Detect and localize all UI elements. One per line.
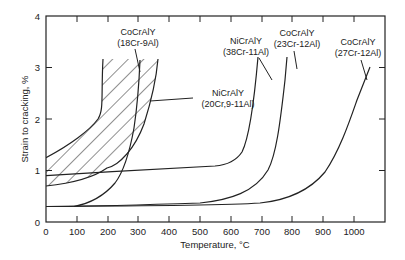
- annotation-line2: (20Cr,9-11Al): [202, 99, 255, 109]
- y-tick-label: 0: [35, 217, 40, 228]
- y-tick-label: 3: [35, 62, 40, 73]
- leader-line: [361, 60, 367, 80]
- annotation-line2: (18Cr-9Al): [117, 38, 159, 48]
- annotation-line1: CoCrAlY: [340, 37, 375, 47]
- annotation-cocraly-27cr: CoCrAlY (27Cr-12Al): [335, 37, 382, 80]
- y-tick-labels: 0 1 2 3 4: [35, 11, 40, 228]
- x-tick-label: 900: [315, 226, 331, 237]
- x-tick-label: 0: [43, 226, 48, 237]
- annotation-line1: CoCrAlY: [120, 27, 155, 37]
- series-cocraly-23cr: [46, 57, 287, 207]
- annotation-line1: NiCrAlY: [230, 36, 262, 46]
- x-tick-label: 700: [254, 226, 270, 237]
- series-cocralY-18cr-band: [46, 59, 158, 186]
- annotation-nicraly-38cr: NiCrAlY (38Cr-11Al): [223, 36, 272, 80]
- x-tick-label: 600: [223, 226, 239, 237]
- annotation-line2: (38Cr-11Al): [223, 47, 269, 57]
- x-tick-labels: 0 100 200 300 400 500 600 700 800 900 10…: [43, 226, 364, 237]
- x-tick-label: 100: [69, 226, 85, 237]
- x-tick-label: 1000: [343, 226, 364, 237]
- annotation-line2: (23Cr-12Al): [274, 39, 321, 49]
- annotation-line2: (27Cr-12Al): [335, 48, 382, 58]
- y-axis-title: Strain to cracking, %: [19, 75, 30, 163]
- x-tick-label: 200: [100, 226, 116, 237]
- y-tick-label: 1: [35, 165, 40, 176]
- annotation-line1: CoCrAlY: [279, 28, 314, 38]
- x-tick-label: 400: [161, 226, 177, 237]
- strain-vs-temperature-chart: 0 100 200 300 400 500 600 700 800 900 10…: [0, 0, 405, 260]
- leader-line: [150, 98, 193, 101]
- annotation-line1: NiCrAlY: [212, 88, 244, 98]
- annotation-nicraly-20cr: NiCrAlY (20Cr,9-11Al): [150, 88, 254, 109]
- x-tick-label: 300: [130, 226, 146, 237]
- y-tick-label: 4: [35, 11, 40, 22]
- plot-frame: [46, 16, 385, 222]
- leader-line: [294, 51, 297, 69]
- x-axis-title: Temperature, °C: [180, 239, 249, 250]
- x-tick-label: 800: [284, 226, 300, 237]
- y-tick-label: 2: [35, 114, 40, 125]
- leader-line: [259, 58, 272, 80]
- x-tick-label: 500: [192, 226, 208, 237]
- annotation-cocraly-23cr: CoCrAlY (23Cr-12Al): [274, 28, 321, 69]
